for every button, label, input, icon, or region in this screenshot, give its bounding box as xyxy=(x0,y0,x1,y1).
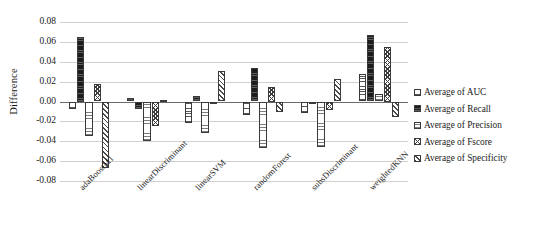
bar xyxy=(326,102,333,111)
bar xyxy=(218,71,225,102)
legend-swatch-icon xyxy=(414,105,421,112)
bar xyxy=(276,102,283,113)
bar xyxy=(268,87,275,102)
bar xyxy=(243,102,250,116)
y-axis-tick-label: -0.04 xyxy=(24,136,56,146)
bar xyxy=(69,102,76,110)
chart-legend: Average of AUCAverage of RecallAverage o… xyxy=(414,84,533,167)
bar xyxy=(251,68,258,102)
bar xyxy=(392,102,399,118)
legend-swatch-icon xyxy=(414,138,421,145)
legend-item[interactable]: Average of Specificity xyxy=(414,150,533,167)
legend-item[interactable]: Average of Precision xyxy=(414,117,533,134)
legend-swatch-icon xyxy=(414,155,421,162)
y-axis-tick-label: 0.08 xyxy=(24,17,56,27)
legend-swatch-icon xyxy=(414,122,421,129)
x-axis-category-labels: adaBoostM1linearDiscriminantlinearSVMran… xyxy=(60,181,408,249)
legend-item[interactable]: Average of AUC xyxy=(414,84,533,101)
legend-item[interactable]: Average of Recall xyxy=(414,101,533,118)
legend-item[interactable]: Average of Fscore xyxy=(414,134,533,151)
legend-label: Average of AUC xyxy=(424,87,486,97)
y-axis-tick-label: -0.06 xyxy=(24,156,56,166)
bar xyxy=(185,102,192,124)
legend-label: Average of Precision xyxy=(424,120,502,130)
bar xyxy=(367,35,374,102)
bar xyxy=(210,102,217,104)
bar xyxy=(94,84,101,102)
bar xyxy=(85,102,92,137)
bar xyxy=(193,96,200,102)
y-axis-tick-label: 0.02 xyxy=(24,77,56,87)
y-axis-tick-label: -0.02 xyxy=(24,116,56,126)
bar xyxy=(127,98,134,102)
legend-swatch-icon xyxy=(414,89,421,96)
y-axis-tick-labels: 0.080.060.040.020.00-0.02-0.04-0.06-0.08 xyxy=(24,0,56,249)
bar-group xyxy=(176,22,234,181)
bar xyxy=(317,102,324,148)
y-axis-tick-label: 0.00 xyxy=(24,97,56,107)
bar xyxy=(135,102,142,110)
y-axis-title: Difference xyxy=(8,52,19,132)
grouped-bar-chart: Difference 0.080.060.040.020.00-0.02-0.0… xyxy=(0,0,533,249)
bar xyxy=(301,102,308,114)
y-axis-tick-label: 0.06 xyxy=(24,37,56,47)
bar xyxy=(334,79,341,102)
y-axis-tick-label: 0.04 xyxy=(24,57,56,67)
legend-label: Average of Fscore xyxy=(424,137,492,147)
bar xyxy=(359,74,366,102)
legend-label: Average of Recall xyxy=(424,104,491,114)
bar xyxy=(152,102,159,127)
bar xyxy=(384,47,391,102)
bar xyxy=(309,102,316,104)
bar xyxy=(201,102,208,134)
bar xyxy=(77,37,84,102)
bar xyxy=(375,94,382,102)
bar xyxy=(160,100,167,102)
bar xyxy=(143,102,150,142)
bar xyxy=(259,102,266,149)
y-axis-tick-label: -0.08 xyxy=(24,176,56,186)
legend-label: Average of Specificity xyxy=(424,153,507,163)
